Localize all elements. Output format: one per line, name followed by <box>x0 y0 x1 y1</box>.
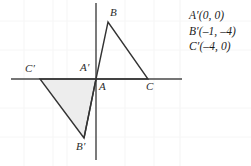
vertex-label-b: B <box>110 7 117 18</box>
axis-lines <box>11 3 182 160</box>
coordinate-line-c-prime: C′(–4, 0) <box>189 39 251 55</box>
vertex-label-c: C <box>146 81 154 92</box>
vertex-label-a: A <box>99 81 106 92</box>
vertex-label-a-prime: A′ <box>80 62 90 73</box>
coordinate-answer-list: A′(0, 0) B′(–1, –4) C′(–4, 0) <box>189 8 251 55</box>
vertex-label-b-prime: B′ <box>76 141 86 152</box>
coordinate-line-b-prime: B′(–1, –4) <box>189 24 251 40</box>
coordinate-line-a-prime: A′(0, 0) <box>189 8 251 24</box>
vertex-label-c-prime: C′ <box>25 63 35 74</box>
geometry-figure-page: B A′ A C′ C B′ A′(0, 0) B′(–1, –4) C′(–4… <box>0 0 251 166</box>
